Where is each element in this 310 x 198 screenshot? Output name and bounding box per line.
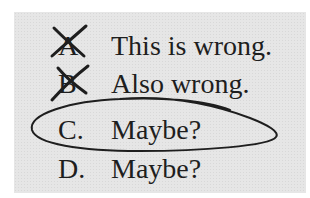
option-letter: A bbox=[58, 32, 78, 60]
option-d: D. Maybe? bbox=[14, 155, 306, 191]
option-c: C. Maybe? bbox=[14, 116, 306, 152]
option-letter: D. bbox=[58, 155, 85, 183]
option-a: A This is wrong. bbox=[14, 32, 306, 68]
option-letter: C. bbox=[58, 116, 84, 144]
option-text: Also wrong. bbox=[111, 70, 249, 98]
option-text: Maybe? bbox=[111, 116, 201, 144]
answer-choices-card: A This is wrong. B Also wrong. C. Maybe?… bbox=[14, 12, 306, 193]
option-text: Maybe? bbox=[111, 155, 201, 183]
option-b: B Also wrong. bbox=[14, 70, 306, 106]
option-text: This is wrong. bbox=[111, 32, 272, 60]
option-letter: B bbox=[58, 70, 77, 98]
